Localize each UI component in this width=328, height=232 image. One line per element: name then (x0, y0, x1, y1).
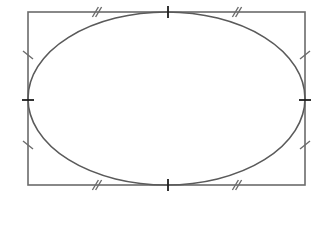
ellipse-in-rectangle-diagram (0, 0, 328, 232)
tangent-point-ticks (22, 6, 311, 191)
bounding-rectangle (28, 12, 305, 185)
inscribed-ellipse (28, 12, 305, 185)
congruence-tick-marks (23, 7, 310, 190)
